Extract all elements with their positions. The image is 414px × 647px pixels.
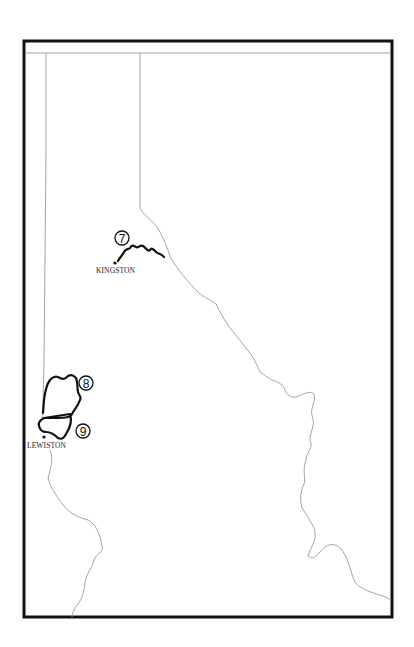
kingston-city-dot: [113, 261, 116, 264]
route-9-marker[interactable]: 9: [76, 424, 90, 439]
route-8-marker[interactable]: 8: [79, 376, 93, 391]
eastern-state-border: [140, 53, 390, 600]
route-8-path[interactable]: [43, 375, 81, 418]
route-8-number: 8: [83, 377, 90, 391]
snake-river-border: [48, 450, 102, 617]
route-7-marker[interactable]: 7: [115, 231, 129, 246]
route-9-number: 9: [80, 425, 87, 439]
map-frame: [24, 41, 392, 617]
map-canvas: KINGSTON LEWISTON 7 8 9: [0, 0, 414, 647]
lewiston-city-label: LEWISTON: [27, 441, 66, 450]
western-state-border: [42, 53, 46, 418]
route-7-number: 7: [119, 232, 126, 246]
kingston-city-label: KINGSTON: [96, 266, 135, 275]
lewiston-city-dot: [42, 435, 45, 438]
route-7-path[interactable]: [118, 246, 164, 261]
